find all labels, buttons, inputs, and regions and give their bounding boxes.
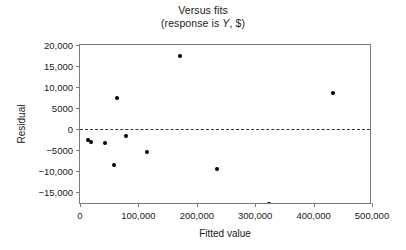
chart-subtitle-suffix: , $) — [229, 17, 245, 29]
x-axis-tick-label: 300,000 — [238, 210, 272, 221]
y-axis-tick-label: 10,000 — [44, 82, 73, 93]
data-point — [115, 96, 119, 100]
x-axis-tick — [314, 203, 315, 207]
y-axis-tick-label: 15,000 — [44, 61, 73, 72]
x-axis-tick-label: 400,000 — [296, 210, 330, 221]
x-axis-tick-label: 200,000 — [180, 210, 214, 221]
y-axis-tick — [76, 192, 80, 193]
x-axis-tick-label: 100,000 — [121, 210, 155, 221]
x-axis-tick — [372, 203, 373, 207]
y-axis-tick-label: 20,000 — [44, 40, 73, 51]
y-axis-tick — [76, 150, 80, 151]
y-axis-tick-label: 5000 — [52, 103, 73, 114]
plot-area: 20,00015,00010,00050000−5000−10,000−15,0… — [79, 44, 371, 204]
data-point — [89, 140, 93, 144]
data-point — [178, 54, 182, 58]
y-axis-tick — [76, 129, 80, 130]
x-axis-tick-label: 0 — [77, 210, 82, 221]
y-axis-tick — [76, 66, 80, 67]
y-axis-tick — [76, 108, 80, 109]
data-point — [331, 91, 335, 95]
y-axis-tick-label: 0 — [68, 124, 73, 135]
x-axis-tick — [80, 203, 81, 207]
x-axis-tick — [255, 203, 256, 207]
y-axis-tick-label: −15,000 — [38, 187, 73, 198]
x-axis-tick — [197, 203, 198, 207]
y-axis-tick — [76, 45, 80, 46]
x-axis-tick — [138, 203, 139, 207]
y-axis-tick-label: −5000 — [46, 145, 73, 156]
versus-fits-scatter-chart: Versus fits (response is Y, $) 20,00015,… — [0, 0, 406, 250]
plot-canvas — [80, 45, 370, 203]
chart-title: Versus fits — [0, 4, 406, 17]
data-point — [145, 150, 149, 154]
x-axis-tick-label: 500,000 — [355, 210, 389, 221]
data-point — [112, 163, 116, 167]
data-point — [124, 134, 128, 138]
data-point — [215, 167, 219, 171]
y-axis-tick — [76, 171, 80, 172]
zero-reference-line — [80, 129, 370, 130]
y-axis-tick-label: −10,000 — [38, 166, 73, 177]
y-axis-title: Residual — [16, 105, 27, 144]
chart-subtitle: (response is Y, $) — [0, 17, 406, 30]
y-axis-tick — [76, 87, 80, 88]
chart-subtitle-prefix: (response is — [161, 17, 222, 29]
chart-title-block: Versus fits (response is Y, $) — [0, 4, 406, 30]
data-point — [103, 141, 107, 145]
data-point — [267, 202, 271, 203]
x-axis-title: Fitted value — [79, 228, 371, 239]
